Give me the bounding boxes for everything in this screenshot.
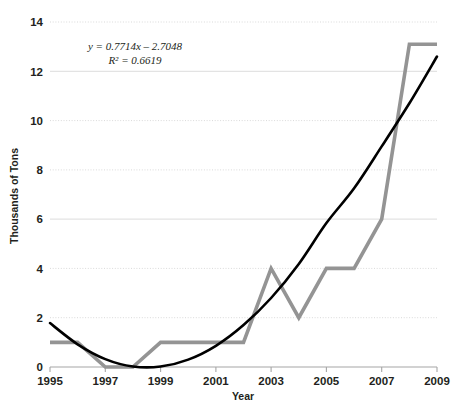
tonnage-trend-chart: 0 2 4 6 8 10 12 14 1995 1997 1999 2001 2… xyxy=(0,0,466,410)
ytick-label-4: 4 xyxy=(37,263,44,275)
ytick-label-14: 14 xyxy=(30,16,43,28)
regression-equation-text: y = 0.7714x – 2.7048 xyxy=(87,40,183,52)
xtick-label-1999: 1999 xyxy=(148,375,174,387)
chart-container: 0 2 4 6 8 10 12 14 1995 1997 1999 2001 2… xyxy=(0,0,466,410)
xtick-label-2001: 2001 xyxy=(203,375,229,387)
xtick-label-1995: 1995 xyxy=(37,375,63,387)
x-axis-title: Year xyxy=(232,390,254,402)
ytick-label-6: 6 xyxy=(37,213,43,225)
chart-background xyxy=(0,0,466,410)
xtick-label-1997: 1997 xyxy=(93,375,119,387)
ytick-label-10: 10 xyxy=(30,115,43,127)
r-squared-text: R² = 0.6619 xyxy=(107,54,162,66)
ytick-label-8: 8 xyxy=(37,164,44,176)
ytick-label-2: 2 xyxy=(37,312,43,324)
ytick-label-12: 12 xyxy=(30,66,43,78)
y-axis-title: Thousands of Tons xyxy=(8,148,20,244)
ytick-label-0: 0 xyxy=(37,361,43,373)
xtick-label-2007: 2007 xyxy=(369,375,395,387)
xtick-label-2003: 2003 xyxy=(258,375,284,387)
xtick-label-2005: 2005 xyxy=(314,375,340,387)
xtick-label-2009: 2009 xyxy=(424,375,450,387)
